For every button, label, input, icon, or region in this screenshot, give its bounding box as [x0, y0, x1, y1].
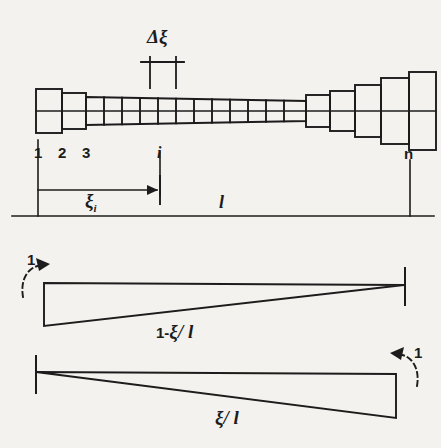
xi-symbol: ξ	[85, 190, 94, 211]
formula-over-l: / l	[178, 321, 193, 342]
lower-triangle-formula: ξ/ l	[215, 408, 239, 427]
beam-body	[36, 72, 436, 150]
delta-xi-label: Δξ	[147, 27, 167, 46]
node-label-1: 1	[34, 145, 42, 160]
node-label-n: n	[404, 146, 413, 161]
delta-xi-dimension-marker	[141, 57, 184, 88]
formula-one-minus: 1-	[156, 324, 169, 341]
beam-influence-line-figure: Δξ 1 2 3 i n ξi l 1 1-ξ/ l 1 ξ/ l	[0, 0, 441, 448]
formula-over-l-lower: / l	[224, 407, 239, 428]
formula-xi: ξ	[169, 321, 178, 342]
node-label-i: i	[157, 145, 161, 161]
xi-i-dimension-line	[38, 176, 160, 204]
length-dimension-label: l	[219, 193, 224, 211]
node-label-3: 3	[82, 145, 90, 160]
figure-vector-graphics	[0, 0, 441, 448]
xi-subscript: i	[94, 202, 97, 214]
lower-unit-rotation-label: 1	[414, 345, 422, 360]
upper-influence-triangle	[44, 283, 404, 326]
formula-xi-lower: ξ	[215, 407, 224, 428]
xi-i-dimension-label: ξi	[85, 191, 97, 214]
node-label-2: 2	[58, 145, 66, 160]
upper-unit-rotation-label: 1	[27, 252, 35, 267]
upper-triangle-formula: 1-ξ/ l	[156, 322, 193, 341]
